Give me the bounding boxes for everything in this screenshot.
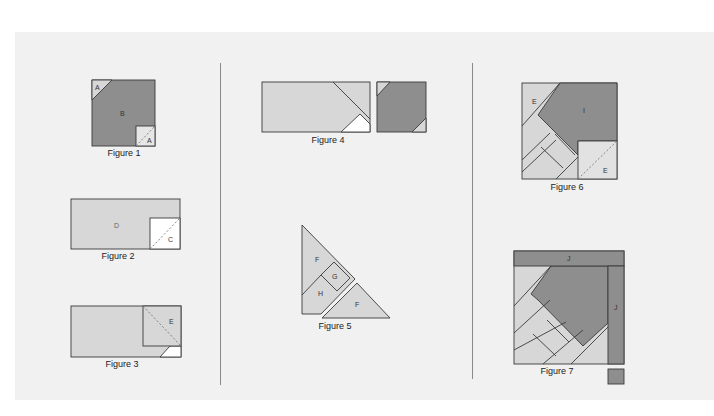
- figure-5-label-g: G: [332, 273, 337, 280]
- figure-3-caption: Figure 3: [82, 359, 162, 369]
- figure-1-label-a-top: A: [95, 84, 100, 91]
- figure-5-label-f-top: F: [315, 256, 319, 263]
- figure-2-label-c: C: [168, 236, 173, 243]
- figures-canvas: A B A D C E: [0, 0, 714, 416]
- figure-6-label-e-bottom: E: [603, 167, 608, 174]
- figure-1-caption: Figure 1: [84, 148, 164, 158]
- figure-6-caption: Figure 6: [527, 182, 607, 192]
- figure-5-label-h: H: [318, 290, 323, 297]
- figure-2-caption: Figure 2: [78, 251, 158, 261]
- figure-7-diagram: [514, 251, 624, 384]
- figure-6-label-e-top: E: [532, 98, 537, 105]
- figure-5-diagram: [302, 225, 390, 318]
- figure-5-label-f-bottom: F: [355, 301, 359, 308]
- figure-4-caption: Figure 4: [288, 135, 368, 145]
- figure-7-label-j-right: J: [614, 304, 618, 311]
- figure-7-caption: Figure 7: [517, 366, 597, 376]
- figure-1-label-b: B: [120, 110, 125, 117]
- figure-3-diagram: [71, 306, 181, 357]
- figure-1-label-a-bottom: A: [147, 137, 152, 144]
- figure-7-label-j-top: J: [567, 255, 571, 262]
- figure-5-caption: Figure 5: [295, 321, 375, 331]
- figure-2-label-d: D: [114, 222, 119, 229]
- figure-3-label-e: E: [169, 318, 174, 325]
- figure-4-diagram: [262, 82, 426, 132]
- figure-2-diagram: [71, 199, 180, 249]
- figure-6-label-i: I: [583, 107, 585, 114]
